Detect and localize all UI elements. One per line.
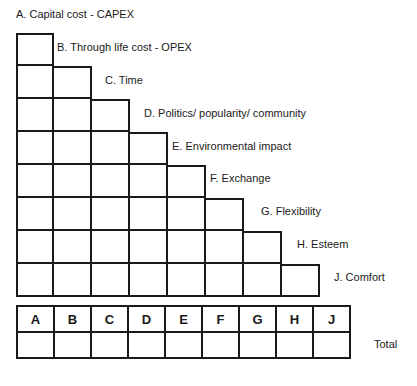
matrix-cell[interactable]: [54, 66, 92, 99]
matrix-cell[interactable]: [168, 198, 206, 231]
matrix-cell[interactable]: [206, 231, 244, 264]
total-row-label: Total: [374, 338, 397, 350]
matrix-cell[interactable]: [16, 132, 54, 165]
totals-value-f[interactable]: [202, 332, 239, 358]
table-row: [16, 165, 320, 198]
totals-value-row: [17, 332, 350, 358]
matrix-cell[interactable]: [168, 231, 206, 264]
matrix-cell[interactable]: [206, 264, 244, 297]
matrix-cell[interactable]: [16, 99, 54, 132]
matrix-cell[interactable]: [92, 132, 130, 165]
totals-header-j: J: [313, 306, 350, 332]
totals-header-h: H: [276, 306, 313, 332]
criterion-label-j: J. Comfort: [334, 271, 385, 284]
totals-header-d: D: [128, 306, 165, 332]
criterion-label-a: A. Capital cost - CAPEX: [16, 8, 134, 21]
comparison-grid: [16, 33, 320, 297]
table-row: [16, 66, 320, 99]
matrix-cell[interactable]: [16, 165, 54, 198]
matrix-cell[interactable]: [92, 198, 130, 231]
matrix-cell[interactable]: [16, 231, 54, 264]
table-row: [16, 33, 320, 66]
totals-value-j[interactable]: [313, 332, 350, 358]
totals-header-g: G: [239, 306, 276, 332]
matrix-cell[interactable]: [54, 99, 92, 132]
matrix-cell[interactable]: [16, 198, 54, 231]
matrix-cell[interactable]: [16, 33, 54, 66]
matrix-cell[interactable]: [168, 264, 206, 297]
matrix-cell[interactable]: [54, 132, 92, 165]
totals-value-b[interactable]: [54, 332, 91, 358]
table-row: [16, 132, 320, 165]
matrix-cell[interactable]: [16, 264, 54, 297]
matrix-cell[interactable]: [168, 165, 206, 198]
paired-comparison-matrix-sheet: A. Capital cost - CAPEX B. Through life …: [0, 0, 417, 386]
matrix-cell[interactable]: [282, 264, 320, 297]
matrix-cell[interactable]: [206, 198, 244, 231]
matrix-cell[interactable]: [130, 231, 168, 264]
matrix-cell[interactable]: [130, 132, 168, 165]
matrix-cell[interactable]: [130, 264, 168, 297]
table-row: [16, 231, 320, 264]
totals-value-c[interactable]: [91, 332, 128, 358]
table-row: [16, 99, 320, 132]
totals-header-f: F: [202, 306, 239, 332]
matrix-cell[interactable]: [130, 165, 168, 198]
matrix-cell[interactable]: [92, 99, 130, 132]
totals-header-b: B: [54, 306, 91, 332]
totals-value-d[interactable]: [128, 332, 165, 358]
totals-value-e[interactable]: [165, 332, 202, 358]
totals-header-c: C: [91, 306, 128, 332]
matrix-cell[interactable]: [54, 231, 92, 264]
totals-table: A B C D E F G H J: [16, 305, 351, 359]
totals-value-g[interactable]: [239, 332, 276, 358]
matrix-cell[interactable]: [16, 66, 54, 99]
matrix-cell[interactable]: [130, 198, 168, 231]
table-row: [16, 264, 320, 297]
matrix-cell[interactable]: [92, 231, 130, 264]
matrix-cell[interactable]: [244, 264, 282, 297]
totals-header-a: A: [17, 306, 54, 332]
totals-value-a[interactable]: [17, 332, 54, 358]
totals-header-row: A B C D E F G H J: [17, 306, 350, 332]
matrix-cell[interactable]: [92, 165, 130, 198]
matrix-cell[interactable]: [92, 264, 130, 297]
matrix-cell[interactable]: [54, 264, 92, 297]
matrix-cell[interactable]: [54, 198, 92, 231]
totals-value-h[interactable]: [276, 332, 313, 358]
matrix-cell[interactable]: [244, 231, 282, 264]
totals-header-e: E: [165, 306, 202, 332]
matrix-cell[interactable]: [54, 165, 92, 198]
table-row: [16, 198, 320, 231]
